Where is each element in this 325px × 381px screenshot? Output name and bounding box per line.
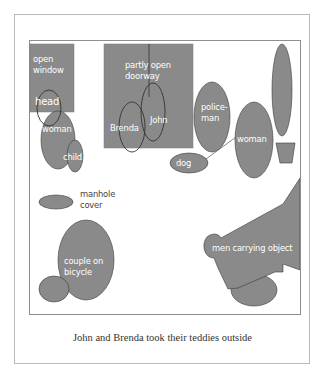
couple-label-line2: bicycle (64, 267, 103, 278)
figure-caption: John and Brenda took their teddies outsi… (0, 332, 325, 343)
doorway-label: partly open doorway (125, 60, 171, 81)
policeman-label-line2: man (201, 113, 227, 124)
open-window-label-line1: open (33, 54, 64, 65)
bicycle-wheel-shape (39, 276, 69, 302)
woman-left-label: woman (42, 124, 72, 135)
policeman-label-line1: police- (201, 102, 227, 113)
manhole-shape (39, 195, 73, 209)
couple-label-line1: couple on (64, 256, 103, 267)
open-window-label: open window (33, 54, 64, 75)
child-label: child (63, 152, 82, 163)
open-window-label-line2: window (33, 65, 64, 76)
couple-label: couple on bicycle (64, 256, 103, 277)
woman-right-label: woman (237, 134, 267, 145)
manhole-label-line2: cover (80, 200, 115, 211)
men-carrying-label: men carrying object (212, 243, 292, 254)
policeman-label: police- man (201, 102, 227, 123)
men-carrying-object-shape (204, 178, 300, 289)
dog-label: dog (176, 158, 191, 169)
john-label: John (150, 115, 167, 126)
head-label: head (35, 97, 59, 108)
doorway-label-line2: doorway (125, 71, 171, 82)
plant-shape (272, 44, 292, 136)
manhole-label: manhole cover (80, 189, 115, 210)
brenda-label: Brenda (110, 123, 139, 134)
plant-pot-shape (276, 143, 295, 163)
manhole-label-line1: manhole (80, 189, 115, 200)
doorway-label-line1: partly open (125, 60, 171, 71)
